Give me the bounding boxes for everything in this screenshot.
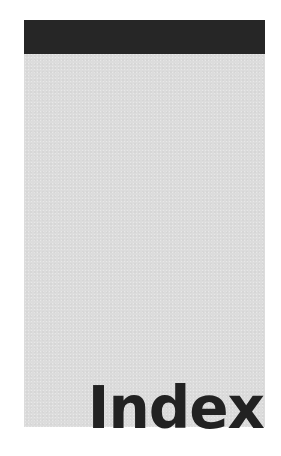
chapter-title: Index bbox=[88, 379, 264, 437]
chapter-title-panel: Index bbox=[24, 20, 265, 427]
header-band bbox=[24, 20, 265, 54]
